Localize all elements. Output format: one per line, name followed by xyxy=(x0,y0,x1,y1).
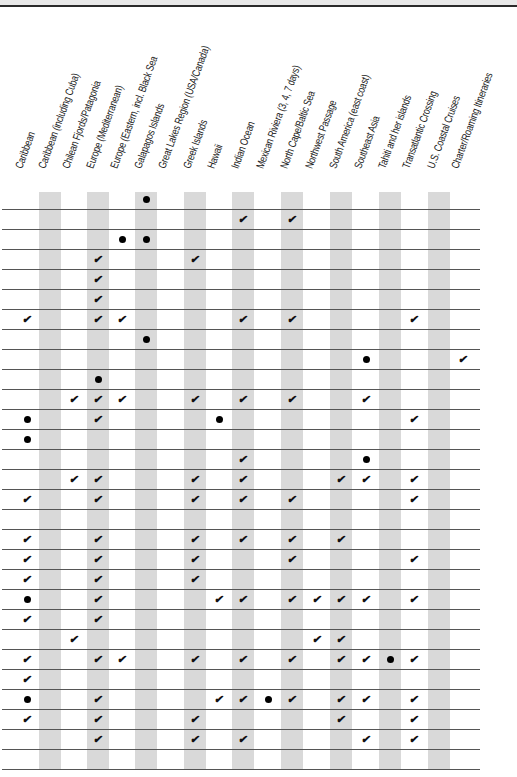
table-cell: ✔ xyxy=(233,209,253,229)
dot-icon xyxy=(363,356,370,363)
check-icon: ✔ xyxy=(116,309,129,329)
check-icon: ✔ xyxy=(286,689,299,709)
check-icon: ✔ xyxy=(21,609,34,629)
check-icon: ✔ xyxy=(189,529,202,549)
table-cell: ✔ xyxy=(88,469,108,489)
table-cell: ✔ xyxy=(233,449,253,469)
check-icon: ✔ xyxy=(237,209,250,229)
check-icon: ✔ xyxy=(237,489,250,509)
table-cell: ✔ xyxy=(17,529,37,549)
table-cell: ✔ xyxy=(88,389,108,409)
check-icon: ✔ xyxy=(213,689,226,709)
dot-icon xyxy=(363,456,370,463)
check-icon: ✔ xyxy=(286,309,299,329)
check-icon: ✔ xyxy=(92,489,105,509)
check-icon: ✔ xyxy=(286,489,299,509)
check-icon: ✔ xyxy=(92,729,105,749)
table-cell: ✔ xyxy=(209,589,229,609)
row-divider xyxy=(2,249,480,250)
table-cell: ✔ xyxy=(185,549,205,569)
column-header-label: Hawaii xyxy=(205,143,225,170)
table-cell: ✔ xyxy=(64,469,84,489)
table-cell: ✔ xyxy=(404,729,424,749)
table-cell: ✔ xyxy=(233,389,253,409)
row-divider xyxy=(2,289,480,290)
dot-icon xyxy=(24,416,31,423)
table-cell: ✔ xyxy=(233,309,253,329)
table-cell xyxy=(209,409,229,429)
check-icon: ✔ xyxy=(92,549,105,569)
table-cell: ✔ xyxy=(331,629,351,649)
table-cell: ✔ xyxy=(233,489,253,509)
table-cell: ✔ xyxy=(404,589,424,609)
check-icon: ✔ xyxy=(335,589,348,609)
dot-icon xyxy=(119,236,126,243)
table-cell: ✔ xyxy=(404,649,424,669)
table-cell: ✔ xyxy=(88,589,108,609)
check-icon: ✔ xyxy=(189,709,202,729)
table-cell: ✔ xyxy=(17,489,37,509)
table-cell: ✔ xyxy=(17,549,37,569)
check-icon: ✔ xyxy=(408,549,421,569)
table-cell: ✔ xyxy=(185,469,205,489)
dot-icon xyxy=(216,416,223,423)
check-icon: ✔ xyxy=(21,549,34,569)
check-icon: ✔ xyxy=(92,389,105,409)
table-cell: ✔ xyxy=(404,709,424,729)
check-icon: ✔ xyxy=(92,689,105,709)
table-cell: ✔ xyxy=(185,729,205,749)
table-cell: ✔ xyxy=(307,589,327,609)
table-cell: ✔ xyxy=(233,729,253,749)
table-cell xyxy=(88,369,108,389)
column-stripe xyxy=(135,192,157,769)
table-cell: ✔ xyxy=(331,689,351,709)
check-icon: ✔ xyxy=(92,609,105,629)
check-icon: ✔ xyxy=(68,629,81,649)
table-cell: ✔ xyxy=(185,529,205,549)
check-icon: ✔ xyxy=(92,709,105,729)
check-icon: ✔ xyxy=(21,489,34,509)
check-icon: ✔ xyxy=(189,569,202,589)
table-cell: ✔ xyxy=(17,669,37,689)
check-icon: ✔ xyxy=(286,209,299,229)
table-cell xyxy=(258,689,278,709)
dot-icon xyxy=(24,436,31,443)
row-divider xyxy=(2,429,480,430)
table-cell: ✔ xyxy=(64,629,84,649)
table-cell: ✔ xyxy=(356,589,376,609)
check-icon: ✔ xyxy=(92,469,105,489)
table-cell xyxy=(380,649,400,669)
table-cell: ✔ xyxy=(17,649,37,669)
check-icon: ✔ xyxy=(335,709,348,729)
check-icon: ✔ xyxy=(189,649,202,669)
check-icon: ✔ xyxy=(189,469,202,489)
column-header-label: Indian Ocean xyxy=(229,120,257,170)
check-icon: ✔ xyxy=(92,309,105,329)
check-icon: ✔ xyxy=(189,389,202,409)
dot-icon xyxy=(95,376,102,383)
table-cell: ✔ xyxy=(282,209,302,229)
check-icon: ✔ xyxy=(360,389,373,409)
dot-icon xyxy=(265,696,272,703)
table-cell xyxy=(356,349,376,369)
row-divider xyxy=(2,769,480,770)
table-cell xyxy=(17,689,37,709)
check-icon: ✔ xyxy=(116,389,129,409)
check-icon: ✔ xyxy=(286,589,299,609)
table-cell: ✔ xyxy=(88,409,108,429)
check-icon: ✔ xyxy=(335,629,348,649)
table-cell: ✔ xyxy=(356,689,376,709)
row-divider xyxy=(2,749,480,750)
check-icon: ✔ xyxy=(21,709,34,729)
check-icon: ✔ xyxy=(237,529,250,549)
table-cell xyxy=(17,409,37,429)
check-icon: ✔ xyxy=(21,569,34,589)
column-stripe xyxy=(379,192,401,769)
table-cell: ✔ xyxy=(282,649,302,669)
column-headers: CaribbeanCaribbean (including Cuba)Chile… xyxy=(0,0,517,190)
check-icon: ✔ xyxy=(408,409,421,429)
table-cell: ✔ xyxy=(404,689,424,709)
check-icon: ✔ xyxy=(408,709,421,729)
check-icon: ✔ xyxy=(237,469,250,489)
check-icon: ✔ xyxy=(189,729,202,749)
